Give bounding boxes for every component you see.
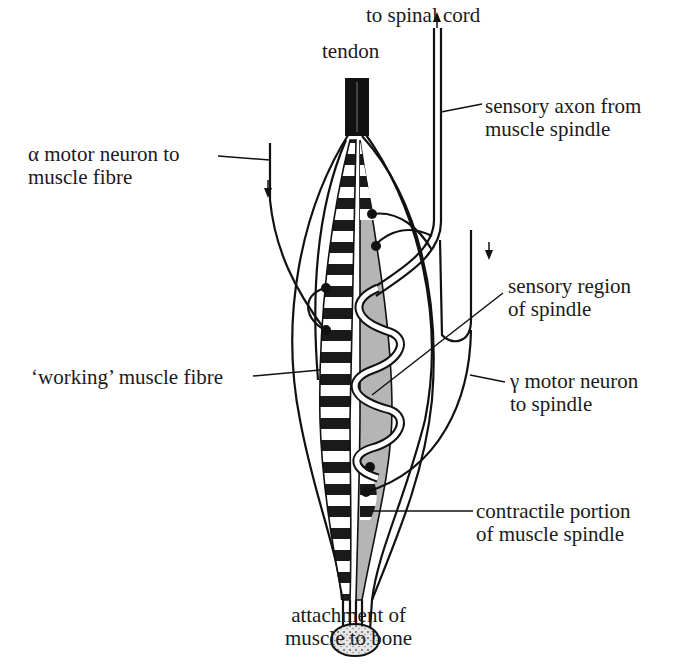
label-to-spinal-cord: to spinal cord bbox=[366, 4, 480, 27]
label-sensory-region-line1: sensory region bbox=[508, 275, 631, 298]
label-attachment-line1: attachment of bbox=[285, 604, 412, 627]
label-attachment-line2: muscle to bone bbox=[285, 627, 412, 650]
alpha-motor-neuron bbox=[270, 143, 325, 330]
label-sensory-axon-line2: muscle spindle bbox=[485, 118, 641, 141]
label-working-muscle-fibre: ‘working’ muscle fibre bbox=[31, 366, 223, 389]
label-alpha-motor-neuron: α motor neuron to muscle fibre bbox=[28, 143, 180, 189]
label-contractile-line2: of muscle spindle bbox=[476, 523, 631, 546]
label-contractile-portion: contractile portion of muscle spindle bbox=[476, 500, 631, 546]
label-gamma-motor-line1: γ motor neuron bbox=[510, 370, 638, 393]
label-tendon: tendon bbox=[322, 40, 379, 63]
label-alpha-motor-line2: muscle fibre bbox=[28, 166, 180, 189]
label-sensory-axon-line1: sensory axon from bbox=[485, 95, 641, 118]
label-sensory-region: sensory region of spindle bbox=[508, 275, 631, 321]
label-sensory-region-line2: of spindle bbox=[508, 298, 631, 321]
label-sensory-axon: sensory axon from muscle spindle bbox=[485, 95, 641, 141]
label-contractile-line1: contractile portion bbox=[476, 500, 631, 523]
sensory-axon bbox=[370, 28, 441, 296]
label-gamma-motor-line2: to spindle bbox=[510, 393, 638, 416]
label-alpha-motor-line1: α motor neuron to bbox=[28, 143, 180, 166]
label-attachment: attachment of muscle to bone bbox=[285, 604, 412, 650]
label-gamma-motor-neuron: γ motor neuron to spindle bbox=[510, 370, 638, 416]
